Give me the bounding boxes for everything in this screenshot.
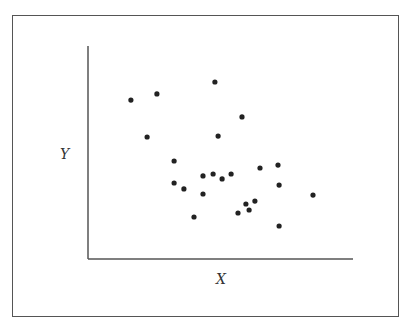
data-point — [181, 186, 186, 191]
data-point — [277, 183, 282, 188]
data-point — [191, 214, 196, 219]
data-point — [216, 134, 221, 139]
data-point — [145, 134, 150, 139]
data-points — [128, 79, 315, 228]
data-point — [211, 171, 216, 176]
x-axis-label: X — [216, 271, 226, 287]
data-point — [277, 223, 282, 228]
data-point — [212, 79, 217, 84]
data-point — [310, 193, 315, 198]
data-point — [239, 114, 244, 119]
data-point — [220, 176, 225, 181]
data-point — [275, 163, 280, 168]
data-point — [252, 199, 257, 204]
data-point — [235, 210, 240, 215]
data-point — [229, 171, 234, 176]
data-point — [128, 98, 133, 103]
data-point — [154, 91, 159, 96]
data-point — [200, 173, 205, 178]
y-axis-label: Y — [60, 146, 69, 162]
data-point — [257, 165, 262, 170]
data-point — [243, 201, 248, 206]
data-point — [247, 207, 252, 212]
scatter-plot — [0, 0, 411, 328]
data-point — [172, 158, 177, 163]
data-point — [172, 180, 177, 185]
data-point — [200, 191, 205, 196]
